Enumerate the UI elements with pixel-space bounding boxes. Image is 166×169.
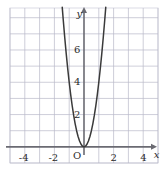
x-tick-label-4: 4 <box>140 153 146 163</box>
y-axis-label: y <box>76 9 82 19</box>
parabola-figure: -4 -2 2 4 2 4 6 O x y <box>0 0 166 169</box>
coordinate-plane <box>0 0 166 169</box>
y-tick-label-2: 2 <box>74 110 80 120</box>
x-tick-label-minus2: -2 <box>48 153 58 163</box>
x-tick-label-minus4: -4 <box>19 153 29 163</box>
y-tick-label-6: 6 <box>74 45 80 55</box>
x-tick-label-2: 2 <box>111 153 117 163</box>
axis-lines <box>6 7 157 155</box>
y-tick-label-4: 4 <box>74 77 80 87</box>
x-axis-label: x <box>154 150 160 160</box>
origin-label: O <box>73 151 81 161</box>
